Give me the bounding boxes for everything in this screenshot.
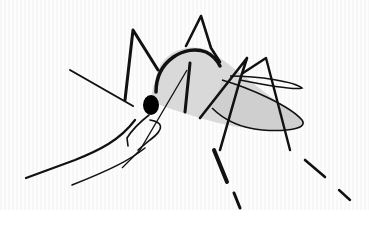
leg-dash-3 bbox=[305, 160, 325, 177]
illustration-canvas bbox=[0, 0, 369, 229]
front-leg-lower-2 bbox=[72, 148, 145, 185]
front-leg-lower-1 bbox=[26, 120, 135, 178]
mosquito-illustration bbox=[0, 0, 369, 229]
leg-dash-1 bbox=[214, 150, 227, 182]
leg-dash-2 bbox=[234, 193, 240, 208]
leg-dash-4 bbox=[339, 190, 350, 200]
antenna bbox=[70, 70, 133, 106]
mosquito-head bbox=[143, 95, 159, 115]
palps bbox=[127, 115, 161, 150]
